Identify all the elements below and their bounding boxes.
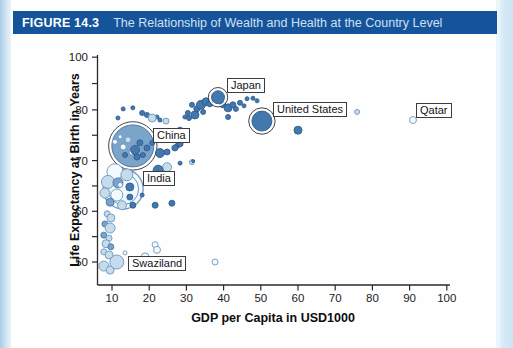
bubble [107, 214, 115, 222]
bubble [120, 144, 126, 150]
bubble [131, 145, 140, 154]
country-label-india: India [143, 171, 175, 186]
bubble [118, 182, 123, 187]
bubble [148, 114, 156, 122]
bubble [100, 188, 110, 198]
bubble [201, 109, 206, 114]
bubble [178, 161, 182, 165]
bubble [163, 118, 169, 124]
bubble [187, 116, 192, 121]
bubble [255, 99, 259, 103]
x-tick-label: 20 [143, 292, 156, 304]
bubble [140, 193, 144, 197]
bubble [118, 135, 122, 139]
y-tick-label: 100 [69, 51, 88, 63]
bubble [172, 145, 178, 151]
x-tick-label: 40 [217, 292, 230, 304]
bubble [123, 153, 128, 158]
bubble [355, 109, 360, 114]
bubble [127, 194, 133, 200]
bubble [121, 107, 125, 111]
y-axis-title: Life Expectancy at Birth in Years [68, 73, 82, 267]
bubble [140, 110, 145, 115]
x-tick-label: 30 [180, 292, 193, 304]
bubble [164, 149, 170, 155]
bubble [251, 96, 255, 100]
bubble [294, 126, 302, 134]
x-tick-label: 60 [292, 292, 305, 304]
bubble [169, 200, 175, 206]
bubble [185, 110, 190, 115]
bubble [125, 137, 131, 143]
bubble [245, 97, 249, 101]
bubble [130, 202, 136, 208]
x-tick-label: 70 [329, 292, 342, 304]
figure-title: The Relationship of Wealth and Health at… [113, 16, 442, 30]
country-label-swaziland: Swaziland [128, 256, 186, 271]
bubble [106, 198, 114, 206]
country-bubble-swaziland [110, 255, 124, 269]
bubble [108, 244, 114, 250]
bubble [154, 246, 161, 253]
country-label-united-states: United States [273, 102, 347, 117]
bubble [242, 104, 246, 108]
bubble [118, 201, 127, 210]
bubble [226, 114, 231, 119]
x-tick-label: 10 [106, 292, 119, 304]
bubble [152, 202, 158, 208]
bubble [155, 148, 164, 157]
scatter-chart: 10203040506070809010050607080100 Life Ex… [0, 34, 513, 348]
bubble [158, 118, 162, 122]
bubble [116, 116, 120, 120]
bubble [189, 102, 194, 107]
bubble [237, 100, 242, 105]
x-tick-label: 50 [254, 292, 267, 304]
bubble [140, 153, 145, 158]
bubble [121, 169, 133, 181]
bubble [101, 175, 114, 188]
bubble [134, 154, 140, 160]
country-bubble-japan [212, 91, 225, 104]
figure-number: FIGURE 14.3 [22, 16, 99, 30]
bubble [144, 145, 150, 151]
bubble [105, 223, 115, 233]
x-axis-title: GDP per Capita in USD1000 [191, 311, 355, 325]
x-tick-label: 100 [437, 292, 456, 304]
bubble [131, 106, 135, 110]
country-label-japan: Japan [227, 78, 265, 93]
x-tick-label: 90 [403, 292, 416, 304]
bubble [233, 106, 238, 111]
country-label-qatar: Qatar [416, 103, 452, 118]
country-bubble-united-states [252, 111, 272, 131]
x-tick-label: 80 [366, 292, 379, 304]
bubble [137, 140, 143, 146]
book-page: FIGURE 14.3 The Relationship of Wealth a… [0, 0, 513, 348]
bubble [191, 111, 199, 119]
country-label-china: China [153, 128, 190, 143]
bubble [126, 183, 134, 191]
bubble [112, 139, 117, 144]
bubble [192, 160, 195, 163]
bubble [212, 259, 218, 265]
bubble [123, 251, 127, 255]
figure-header: FIGURE 14.3 The Relationship of Wealth a… [13, 11, 497, 34]
